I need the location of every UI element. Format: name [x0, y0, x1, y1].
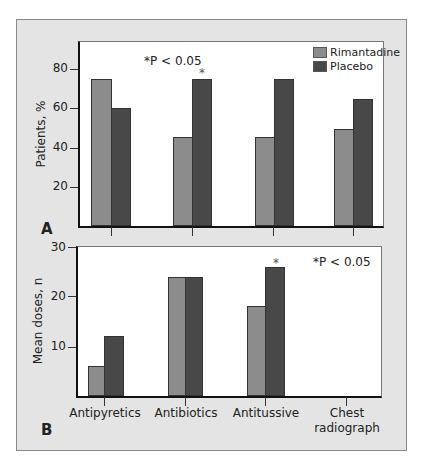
- legend-label-placebo: Placebo: [330, 60, 373, 73]
- tick: [185, 397, 186, 406]
- panel-b-ylabel: Mean doses, n: [31, 261, 45, 381]
- tick: [70, 69, 78, 70]
- legend-swatch-rimantadine: [313, 47, 327, 58]
- legend: Rimantadine Placebo: [313, 45, 400, 73]
- panel-a-letter: A: [41, 220, 53, 238]
- xlabel-chest-radiograph: Chest radiograph: [302, 406, 392, 436]
- bar-a-antibiotics-placebo: [192, 79, 212, 226]
- tick: [70, 148, 78, 149]
- bar-a-chest-rimantadine: [334, 129, 354, 226]
- xlabel-chest-line2: radiograph: [302, 421, 392, 436]
- legend-item-rimantadine: Rimantadine: [313, 45, 400, 59]
- legend-label-rimantadine: Rimantadine: [330, 46, 400, 59]
- panel-a-ytick-80: 80: [38, 61, 68, 75]
- bar-a-antitussive-placebo: [274, 79, 294, 226]
- tick: [68, 247, 76, 248]
- bar-b-antipyretics-placebo: [104, 336, 124, 396]
- bar-a-antitussive-rimantadine: [255, 137, 275, 226]
- bar-a-antipyretics-placebo: [111, 108, 131, 226]
- xlabel-antibiotics: Antibiotics: [141, 406, 231, 421]
- panel-a-ytick-60: 60: [38, 100, 68, 114]
- panel-a-ylabel: Patients, %: [34, 74, 48, 194]
- bar-a-chest-placebo: [353, 99, 373, 226]
- tick: [192, 227, 193, 236]
- tick: [346, 397, 347, 406]
- xlabel-antipyretics: Antipyretics: [60, 406, 150, 421]
- legend-swatch-placebo: [313, 61, 327, 72]
- bar-b-antipyretics-rimantadine: [88, 366, 105, 396]
- bar-a-antipyretics-rimantadine: [91, 79, 112, 226]
- panel-b-significance-star: *: [266, 256, 286, 270]
- tick: [68, 296, 76, 297]
- panel-b-ytick-10: 10: [36, 339, 66, 353]
- bar-b-antitussive-placebo: [265, 267, 285, 396]
- panel-b-ytick-30: 30: [36, 240, 66, 254]
- panel-a-ytick-20: 20: [38, 179, 68, 193]
- bar-b-antibiotics-rimantadine: [168, 277, 186, 396]
- panel-b-ytick-20: 20: [36, 289, 66, 303]
- xlabel-chest-line1: Chest: [302, 406, 392, 421]
- tick: [273, 227, 274, 236]
- bar-a-antibiotics-rimantadine: [173, 137, 193, 226]
- tick: [70, 187, 78, 188]
- xlabel-antitussive: Antitussive: [221, 406, 311, 421]
- tick: [353, 227, 354, 236]
- legend-item-placebo: Placebo: [313, 59, 400, 73]
- panel-b-letter: B: [41, 421, 52, 439]
- bar-b-antibiotics-placebo: [185, 277, 203, 396]
- panel-a-significance-star: *: [192, 66, 212, 80]
- tick: [265, 397, 266, 406]
- tick: [70, 108, 78, 109]
- panel-b-significance-note: *P < 0.05: [313, 255, 371, 269]
- bar-b-antitussive-rimantadine: [247, 306, 266, 396]
- tick: [104, 397, 105, 406]
- panel-a-ytick-40: 40: [38, 140, 68, 154]
- tick: [111, 227, 112, 236]
- tick: [68, 347, 76, 348]
